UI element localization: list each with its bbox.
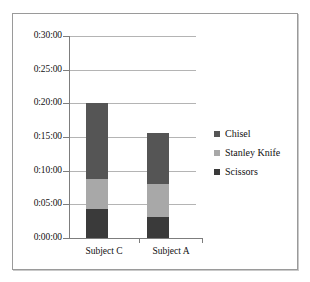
category-end-tick	[202, 238, 203, 243]
legend-item-scissors[interactable]: Scissors	[214, 162, 310, 181]
chart-legend: Chisel Stanley Knife Scissors	[214, 124, 310, 181]
plot-area: 0:30:00 0:25:00 0:20:00 0:15:00 0:10	[69, 36, 196, 238]
category-separator-tick	[139, 238, 140, 243]
chart-screenshot: 0:30:00 0:25:00 0:20:00 0:15:00 0:10	[0, 0, 310, 282]
bar-segment-scissors[interactable]	[86, 209, 108, 238]
y-tick-label: 0:05:00	[34, 197, 62, 210]
legend-swatch-icon	[214, 150, 220, 156]
legend-swatch-icon	[214, 169, 220, 175]
bar-segment-chisel[interactable]	[86, 103, 108, 179]
legend-item-stanley-knife[interactable]: Stanley Knife	[214, 143, 310, 162]
chart-frame: 0:30:00 0:25:00 0:20:00 0:15:00 0:10	[12, 13, 298, 270]
bar-segment-stanley-knife[interactable]	[86, 179, 108, 209]
y-tick-label: 0:10:00	[34, 164, 62, 177]
y-axis-line	[69, 36, 70, 239]
y-tick-label: 0:25:00	[34, 63, 62, 76]
legend-label: Scissors	[225, 165, 258, 178]
x-axis-line	[63, 238, 203, 239]
x-category-label-subject-a: Subject A	[140, 245, 202, 258]
bar-segment-scissors[interactable]	[147, 217, 169, 238]
y-tick-label: 0:00:00	[34, 231, 62, 244]
legend-label: Stanley Knife	[225, 146, 280, 159]
y-tick-label: 0:20:00	[34, 96, 62, 109]
gridline	[69, 36, 196, 37]
y-tick-label: 0:15:00	[34, 130, 62, 143]
gridline	[69, 70, 196, 71]
y-tick-label: 0:30:00	[34, 29, 62, 42]
legend-label: Chisel	[225, 127, 251, 140]
legend-item-chisel[interactable]: Chisel	[214, 124, 310, 143]
bar-segment-chisel[interactable]	[147, 133, 169, 185]
x-category-label-subject-c: Subject C	[71, 245, 137, 258]
bar-subject-c[interactable]	[86, 103, 108, 238]
bar-segment-stanley-knife[interactable]	[147, 184, 169, 217]
legend-swatch-icon	[214, 131, 220, 137]
bar-subject-a[interactable]	[147, 133, 169, 239]
